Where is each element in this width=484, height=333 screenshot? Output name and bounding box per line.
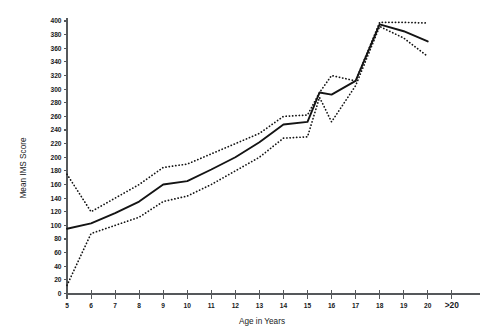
x-axis-tick-label: 12: [232, 302, 240, 309]
x-axis-tick-label: 13: [256, 302, 264, 309]
chart-container: 0204060801001201401601802002202402602803…: [0, 0, 484, 333]
y-axis-tick-label: 180: [50, 167, 61, 174]
y-axis-tick-label: 60: [54, 249, 62, 256]
y-axis-tick-label: 220: [50, 140, 61, 147]
y-axis-tick-label: 340: [50, 58, 61, 65]
y-axis-tick-label: 40: [54, 263, 62, 270]
data-series-group: [67, 22, 428, 285]
x-axis-tick-label: 16: [328, 302, 336, 309]
y-axis-tick-label: 260: [50, 113, 61, 120]
x-axis-tick-label: >20: [445, 300, 460, 310]
x-axis-title: Age in Years: [239, 317, 285, 326]
x-axis-tick-label: 9: [161, 302, 165, 309]
y-axis-tick-label: 380: [50, 31, 61, 38]
y-axis-title: Mean IMS Score: [19, 137, 28, 198]
y-axis-tick-label: 0: [58, 290, 62, 297]
y-axis-tick-label: 120: [50, 208, 61, 215]
x-axis-tick-group: 567891011121314151617181920>20: [65, 290, 459, 311]
series-line-bound-lower: [67, 26, 428, 285]
y-axis-tick-label: 280: [50, 99, 61, 106]
y-axis-tick-label: 140: [50, 195, 61, 202]
y-axis-tick-label: 200: [50, 154, 61, 161]
y-axis-tick-group: 0204060801001201401601802002202402602803…: [50, 17, 67, 297]
series-line-bound-upper: [67, 22, 428, 211]
y-axis-tick-label: 320: [50, 72, 61, 79]
x-axis-tick-label: 15: [304, 302, 312, 309]
x-axis-tick-label: 19: [400, 302, 408, 309]
line-chart-plot: 0204060801001201401601802002202402602803…: [0, 0, 484, 333]
y-axis-tick-label: 100: [50, 222, 61, 229]
y-axis-tick-label: 400: [50, 17, 61, 24]
y-axis-tick-label: 160: [50, 181, 61, 188]
y-axis-tick-label: 80: [54, 235, 62, 242]
x-axis-tick-label: 20: [424, 302, 432, 309]
x-axis-tick-label: 5: [65, 302, 69, 309]
x-axis-tick-label: 14: [280, 302, 288, 309]
x-axis-tick-label: 10: [184, 302, 192, 309]
y-axis-tick-label: 240: [50, 126, 61, 133]
x-axis-tick-label: 11: [208, 302, 215, 309]
y-axis-tick-label: 360: [50, 45, 61, 52]
y-axis-tick-label: 300: [50, 86, 61, 93]
x-axis-tick-label: 8: [137, 302, 141, 309]
x-axis-tick-label: 7: [113, 302, 117, 309]
x-axis-tick-label: 17: [352, 302, 360, 309]
y-axis-tick-label: 20: [54, 276, 62, 283]
x-axis-tick-label: 18: [376, 302, 384, 309]
x-axis-tick-label: 6: [89, 302, 93, 309]
series-line-mean: [67, 24, 428, 228]
